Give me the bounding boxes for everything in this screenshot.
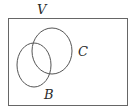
- set-b-label: B: [43, 87, 54, 102]
- universe-rectangle: [9, 19, 128, 106]
- set-c-label: C: [78, 44, 88, 59]
- set-c-ellipse: [32, 28, 72, 74]
- venn-diagram: V C B: [0, 0, 132, 111]
- universe-label: V: [37, 2, 48, 17]
- set-b-ellipse: [17, 43, 51, 87]
